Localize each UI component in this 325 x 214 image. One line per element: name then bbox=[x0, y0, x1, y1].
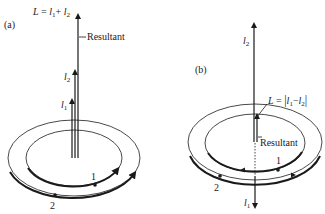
l2-label-b: l2 bbox=[243, 35, 250, 48]
electron-2-dot-b bbox=[218, 174, 222, 178]
panel-a: (a) 1 2 L = l1+ l2 Resultant l2 l1 bbox=[4, 6, 140, 211]
total-l-difference-label: L = |l1−l2| bbox=[267, 93, 307, 108]
electron-2-dot bbox=[53, 193, 57, 197]
total-l-leader-b bbox=[257, 104, 267, 117]
resultant-label-b: Resultant bbox=[260, 137, 298, 148]
outer-orbit-front-arc bbox=[10, 172, 134, 198]
orbit-1-label-b: 1 bbox=[276, 155, 281, 166]
orbit-2-label: 2 bbox=[50, 200, 55, 211]
angular-momentum-coupling-diagram: (a) 1 2 L = l1+ l2 Resultant l2 l1 (b) bbox=[0, 0, 325, 214]
total-l-sum-label: L = l1+ l2 bbox=[32, 6, 70, 19]
electron-1-dot bbox=[93, 183, 97, 187]
l2-label-a: l2 bbox=[64, 71, 71, 84]
outer-orbit-2 bbox=[8, 120, 140, 196]
orbit-1-label: 1 bbox=[91, 171, 96, 182]
l1-label-b: l1 bbox=[244, 197, 251, 210]
electron-1-dot-b bbox=[276, 168, 280, 172]
l1-label-a: l1 bbox=[61, 99, 68, 112]
orbit-2-label-b: 2 bbox=[214, 182, 219, 193]
outer-orbit-2-b bbox=[188, 104, 322, 180]
panel-b-label: (b) bbox=[195, 64, 207, 76]
panel-a-label: (a) bbox=[4, 19, 15, 31]
panel-b: (b) 1 2 l2 L = |l1−l2| Resultant l1 bbox=[188, 25, 322, 210]
inner-orbit-front-arc bbox=[28, 168, 117, 187]
resultant-label-a: Resultant bbox=[87, 31, 125, 42]
